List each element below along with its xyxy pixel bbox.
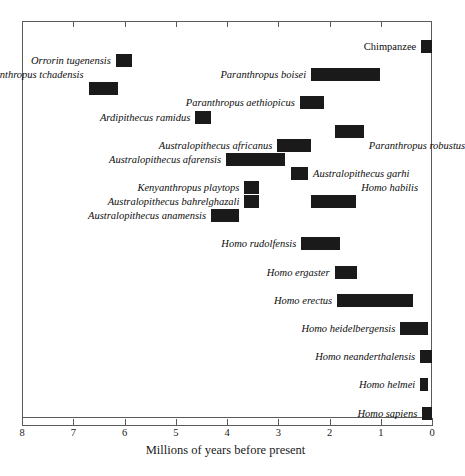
bar-label: Homo heidelbergensis xyxy=(301,322,395,335)
bar-label: Orrorin tugenensis xyxy=(31,54,111,67)
bar-label: Homo neanderthalensis xyxy=(315,350,415,363)
x-axis-left-cap xyxy=(22,418,23,426)
range-bar xyxy=(335,266,358,279)
range-bar xyxy=(291,167,308,180)
bar-label: Sahelanthropus tchadensis xyxy=(0,68,84,81)
range-bar xyxy=(422,407,432,420)
x-axis-right-cap xyxy=(432,418,433,426)
bar-label: Homo helmei xyxy=(359,378,415,391)
range-bar xyxy=(311,195,356,208)
x-tick-4 xyxy=(227,419,228,425)
range-bar xyxy=(420,378,428,391)
x-tick-label-8: 8 xyxy=(19,427,24,438)
range-bar xyxy=(244,195,259,208)
range-bar xyxy=(421,40,432,53)
bar-label: Chimpanzee xyxy=(364,40,416,53)
x-tick-label-1: 1 xyxy=(378,427,383,438)
bar-label: Australopithecus bahrelghazali xyxy=(108,195,240,208)
x-tick-label-7: 7 xyxy=(71,427,76,438)
range-bar xyxy=(311,68,380,81)
bar-label: Ardipithecus ramidus xyxy=(100,111,190,124)
x-tick-label-4: 4 xyxy=(224,427,229,438)
bar-label: Homo ergaster xyxy=(267,266,330,279)
range-bar xyxy=(244,181,259,194)
x-tick-1 xyxy=(381,419,382,425)
range-bar xyxy=(89,82,119,95)
range-bar xyxy=(277,139,311,152)
x-tick-label-6: 6 xyxy=(122,427,127,438)
range-bar xyxy=(420,350,432,363)
x-axis-line xyxy=(22,425,432,426)
bar-label: Paranthropus boisei xyxy=(220,68,306,81)
x-axis-title: Millions of years before present xyxy=(0,443,451,458)
range-bar xyxy=(300,96,325,109)
bar-label: Homo sapiens xyxy=(357,407,417,420)
x-tick-label-2: 2 xyxy=(327,427,332,438)
x-tick-7 xyxy=(73,419,74,425)
bar-label: Australopithecus anamensis xyxy=(88,209,206,222)
bar-label: Kenyanthropus playtops xyxy=(137,181,239,194)
bar-label: Paranthropus robustus xyxy=(369,139,465,152)
x-tick-2 xyxy=(330,419,331,425)
bar-label: Homo rudolfensis xyxy=(221,237,296,250)
range-bar xyxy=(226,153,285,166)
bar-label: Australopithecus africanus xyxy=(159,139,272,152)
range-bar xyxy=(301,237,340,250)
x-tick-label-0: 0 xyxy=(429,427,434,438)
x-tick-label-5: 5 xyxy=(173,427,178,438)
range-bar xyxy=(116,54,132,67)
x-tick-6 xyxy=(125,419,126,425)
range-bar xyxy=(335,125,364,138)
x-tick-label-3: 3 xyxy=(276,427,281,438)
range-bar xyxy=(337,294,413,307)
bar-label: Homo erectus xyxy=(274,294,332,307)
bar-label: Australopithecus garhi xyxy=(313,167,409,180)
x-tick-3 xyxy=(278,419,279,425)
range-bar xyxy=(400,322,428,335)
bar-label: Paranthropus aethiopicus xyxy=(186,96,295,109)
x-tick-5 xyxy=(176,419,177,425)
bar-label: Australopithecus afarensis xyxy=(109,153,221,166)
bar-label: Homo habilis xyxy=(361,181,418,194)
range-bar xyxy=(195,111,211,124)
range-bar xyxy=(211,209,239,222)
